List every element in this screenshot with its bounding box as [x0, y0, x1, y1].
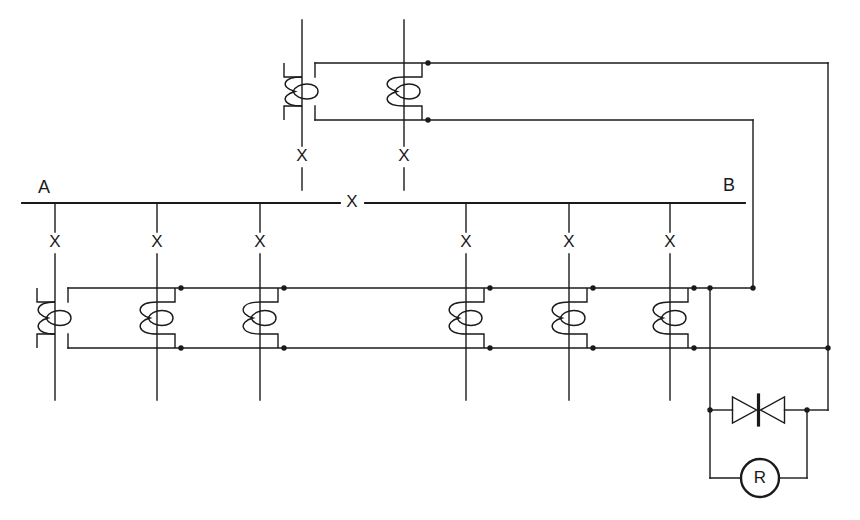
- terminal-a-label: A: [38, 177, 50, 197]
- junction-dot-7: [487, 345, 492, 350]
- branch-marker-x-4: X: [563, 232, 574, 251]
- junction-dot-3: [178, 345, 183, 350]
- upper-branch-marker-x-0: X: [296, 146, 307, 165]
- junction-dot-15: [707, 407, 712, 412]
- coil-step-bottom: [466, 334, 484, 348]
- junction-dot-14: [825, 345, 830, 350]
- coil-step-top: [404, 63, 422, 77]
- junction-dot-1: [425, 117, 430, 122]
- coil-step-top: [284, 63, 302, 77]
- branch-marker-x-0: X: [49, 232, 60, 251]
- resistor-label: R: [754, 468, 766, 487]
- schematic-canvas: XABXXXXXXXXR: [0, 0, 860, 520]
- zener-triangle-right: [761, 397, 785, 423]
- branch-marker-x-1: X: [151, 232, 162, 251]
- junction-dot-5: [281, 345, 286, 350]
- junction-dot-12: [707, 285, 712, 290]
- branch-marker-x-2: X: [254, 232, 265, 251]
- junction-dot-2: [178, 285, 183, 290]
- junction-dot-6: [487, 285, 492, 290]
- coil-step-bottom: [670, 334, 688, 348]
- junction-dot-layer: [178, 60, 830, 412]
- coil-step-top: [37, 288, 55, 302]
- upper-branch-marker-x-1: X: [398, 146, 409, 165]
- coil-step-bottom: [157, 334, 175, 348]
- junction-dot-11: [691, 345, 696, 350]
- coil-layer: [37, 63, 688, 348]
- branch-marker-x-3: X: [460, 232, 471, 251]
- bus-marker-x: X: [346, 192, 357, 211]
- coil-step-top: [670, 288, 688, 302]
- schematic-svg: XABXXXXXXXXR: [0, 0, 860, 520]
- junction-dot-8: [590, 285, 595, 290]
- junction-dot-16: [804, 407, 809, 412]
- zener-triangle-left: [733, 397, 757, 423]
- coil-step-top: [157, 288, 175, 302]
- terminal-b-label: B: [723, 175, 735, 195]
- coil-step-top: [260, 288, 278, 302]
- coil-step-bottom: [284, 106, 302, 120]
- junction-dot-4: [281, 285, 286, 290]
- coil-step-bottom: [260, 334, 278, 348]
- wire-layer: [22, 20, 828, 478]
- junction-dot-10: [691, 285, 696, 290]
- junction-dot-9: [590, 345, 595, 350]
- coil-step-bottom: [37, 334, 55, 348]
- coil-step-top: [569, 288, 587, 302]
- branch-marker-x-5: X: [664, 232, 675, 251]
- junction-dot-0: [425, 60, 430, 65]
- coil-step-bottom: [404, 106, 422, 120]
- junction-dot-13: [750, 285, 755, 290]
- coil-step-top: [466, 288, 484, 302]
- coil-step-bottom: [569, 334, 587, 348]
